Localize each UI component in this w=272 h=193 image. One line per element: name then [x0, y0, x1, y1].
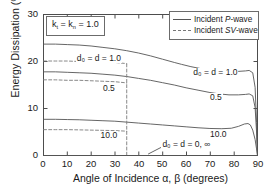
legend-item-sv-wave: Incident SV-wave	[170, 25, 258, 36]
curve-label-10.0-left: 10.0	[100, 131, 119, 140]
legend-dashed-line-icon	[173, 30, 191, 32]
legend: Incident P-wave Incident SV-wave	[169, 11, 259, 40]
parameter-annotation-box: kt = kn = 1.0	[46, 16, 105, 36]
parameter-annotation-text: kt = kn = 1.0	[52, 19, 99, 29]
curve-label-0.5-left: 0.5	[102, 84, 116, 93]
legend-item-p-wave: Incident P-wave	[170, 14, 258, 25]
curve-p-wave-d0-d-0-5	[44, 72, 258, 156]
legend-label-sv-wave: Incident SV-wave	[194, 26, 258, 35]
curve-label-0.5-right: 0.5	[209, 93, 223, 102]
curve-label-d0-0-inf: d₀ = d = 0, ∞	[161, 140, 211, 149]
legend-label-p-wave: Incident P-wave	[194, 15, 252, 24]
energy-dissipation-chart: Energy Dissipation (%) 30 20 10 0 0 10 2…	[0, 0, 272, 193]
curve-label-10.0-right: 10.0	[209, 130, 228, 139]
curve-label-d0-1.0-left: d₀ = d = 1.0	[76, 54, 122, 63]
legend-solid-line-icon	[173, 19, 191, 21]
curve-label-d0-1.0-right: d₀ = d = 1.0	[192, 68, 238, 77]
